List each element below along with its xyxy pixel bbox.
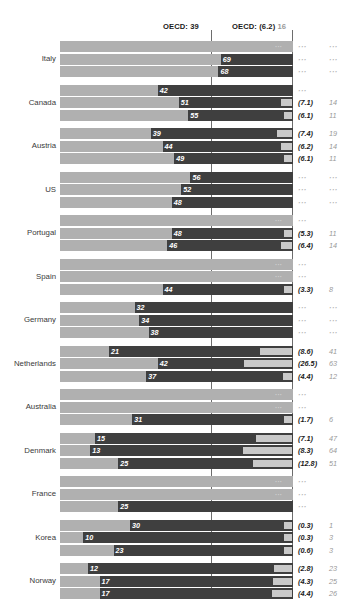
right-value-secondary: 14	[329, 141, 351, 152]
bar-row: 32	[60, 302, 293, 313]
bar-value-label: 56	[190, 172, 200, 183]
bar-fill	[60, 445, 90, 456]
country-label-austria: Austria	[0, 141, 56, 150]
bar-fill	[60, 327, 149, 338]
bar-row: 55	[60, 110, 293, 121]
bar-fill	[60, 588, 100, 599]
right-value-primary: (4.3)	[298, 576, 328, 587]
bar-segment	[284, 522, 292, 529]
bar-segment	[283, 373, 292, 380]
bar-row: 48	[60, 197, 293, 208]
bar-row: ···	[60, 41, 293, 52]
bar-row: ···	[60, 215, 293, 226]
bar-row: ···	[60, 259, 293, 270]
country-group: Denmark15(7.1)4713(8.3)6425(12.8)51	[0, 433, 353, 469]
bar-value-label: 44	[163, 284, 173, 295]
right-value-secondary: 41	[329, 346, 351, 357]
bar-segment	[272, 590, 292, 597]
bar-fill	[60, 153, 174, 164]
bar-fill	[60, 141, 163, 152]
right-value-secondary: 8	[329, 284, 351, 295]
bar-value-label: 55	[188, 110, 198, 121]
right-value-secondary: 14	[329, 97, 351, 108]
right-value-secondary: ···	[329, 197, 351, 208]
bar-row: 12	[60, 563, 293, 574]
bar-row: 38	[60, 327, 293, 338]
bar-value-missing: ···	[275, 215, 282, 226]
right-value-secondary: 14	[329, 240, 351, 251]
country-label-france: France	[0, 489, 56, 498]
country-label-netherlands: Netherlands	[0, 359, 56, 368]
country-label-portugal: Portugal	[0, 228, 56, 237]
right-value-secondary: 11	[329, 110, 351, 121]
bar-fill	[60, 271, 293, 282]
right-value-primary: ···	[298, 85, 328, 96]
bar-row: 42	[60, 358, 293, 369]
right-value-primary: (0.6)	[298, 545, 328, 556]
right-value-secondary: 64	[329, 445, 351, 456]
bar-value-label: 23	[114, 545, 124, 556]
bar-fill	[60, 576, 100, 587]
bar-segment	[284, 534, 292, 541]
bar-segment	[277, 130, 292, 137]
right-value-primary: ···	[298, 327, 328, 338]
bar-fill	[60, 563, 88, 574]
right-value-primary: (7.4)	[298, 128, 328, 139]
bar-value-missing: ···	[275, 489, 282, 500]
right-value-primary: (6.1)	[298, 110, 328, 121]
bar-segment	[284, 230, 292, 237]
right-value-primary: (8.3)	[298, 445, 328, 456]
right-value-primary: (7.1)	[298, 433, 328, 444]
bar-value-label: 48	[172, 197, 182, 208]
bar-fill	[60, 215, 293, 226]
right-value-primary: ···	[298, 315, 328, 326]
bar-row: 44	[60, 141, 293, 152]
right-value-secondary: ···	[329, 327, 351, 338]
right-value-primary: ···	[298, 215, 328, 226]
bar-row: 30	[60, 520, 293, 531]
bar-fill	[60, 315, 139, 326]
bar-value-missing: ···	[275, 389, 282, 400]
bar-row: 39	[60, 128, 293, 139]
bar-value-label: 37	[146, 371, 156, 382]
right-value-primary: ···	[298, 259, 328, 270]
bar-row: 31	[60, 414, 293, 425]
right-value-secondary: 3	[329, 532, 351, 543]
oecd-right-reference-text: OECD: (6.2)	[232, 22, 275, 31]
country-group: US56······52······48······	[0, 172, 353, 208]
country-group: Spain············44(3.3)8	[0, 259, 353, 295]
right-value-primary: ···	[298, 501, 328, 512]
right-value-secondary: ···	[329, 184, 351, 195]
right-value-secondary: ···	[329, 172, 351, 183]
bar-value-label: 10	[83, 532, 93, 543]
country-label-norway: Norway	[0, 576, 56, 585]
bar-row: 69	[60, 54, 293, 65]
bar-value-missing: ···	[275, 402, 282, 413]
bar-fill	[60, 128, 151, 139]
bar-value-label: 42	[158, 358, 168, 369]
bar-value-missing: ···	[275, 476, 282, 487]
right-value-primary: (4.4)	[298, 371, 328, 382]
bar-segment	[253, 460, 292, 467]
bar-row: 23	[60, 545, 293, 556]
right-value-primary: (26.5)	[298, 358, 328, 369]
bar-row: ···	[60, 271, 293, 282]
bar-row: ···	[60, 489, 293, 500]
bar-segment	[256, 435, 292, 442]
country-label-denmark: Denmark	[0, 446, 56, 455]
bar-fill	[60, 389, 293, 400]
country-label-us: US	[0, 185, 56, 194]
country-label-italy: Italy	[0, 54, 56, 63]
country-group: France············25···	[0, 476, 353, 512]
bar-value-label: 15	[95, 433, 105, 444]
bar-fill	[60, 371, 146, 382]
bar-fill	[60, 85, 158, 96]
bar-value-label: 34	[139, 315, 149, 326]
bar-segment	[284, 286, 292, 293]
bar-row: 17	[60, 576, 293, 587]
bar-segment	[284, 547, 292, 554]
bar-value-label: 48	[172, 228, 182, 239]
bar-value-label: 46	[167, 240, 177, 251]
bar-segment	[281, 143, 292, 150]
bar-fill	[60, 228, 172, 239]
